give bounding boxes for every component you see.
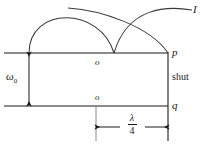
intensity-arc-left xyxy=(29,18,114,53)
port-p-label: p xyxy=(172,47,178,58)
lambda-numerator: λ xyxy=(123,113,141,124)
lambda-denominator: 4 xyxy=(123,125,141,137)
beam-waist-label: ω0 xyxy=(6,71,17,85)
shutter-label: shut xyxy=(172,72,189,82)
intensity-arc-tail xyxy=(68,8,168,53)
origin-top-label: o xyxy=(95,58,100,67)
omega-glyph: ω xyxy=(6,70,14,82)
omega-subscript: 0 xyxy=(14,77,18,85)
port-q-label: q xyxy=(172,100,178,111)
waveguide-shutter-diagram: I p q shut o o ω0 λ 4 xyxy=(0,0,210,147)
origin-bottom-label: o xyxy=(95,93,100,102)
intensity-label: I xyxy=(193,4,197,15)
intensity-arc-right xyxy=(114,8,192,53)
dimension-label: λ 4 xyxy=(123,113,141,136)
